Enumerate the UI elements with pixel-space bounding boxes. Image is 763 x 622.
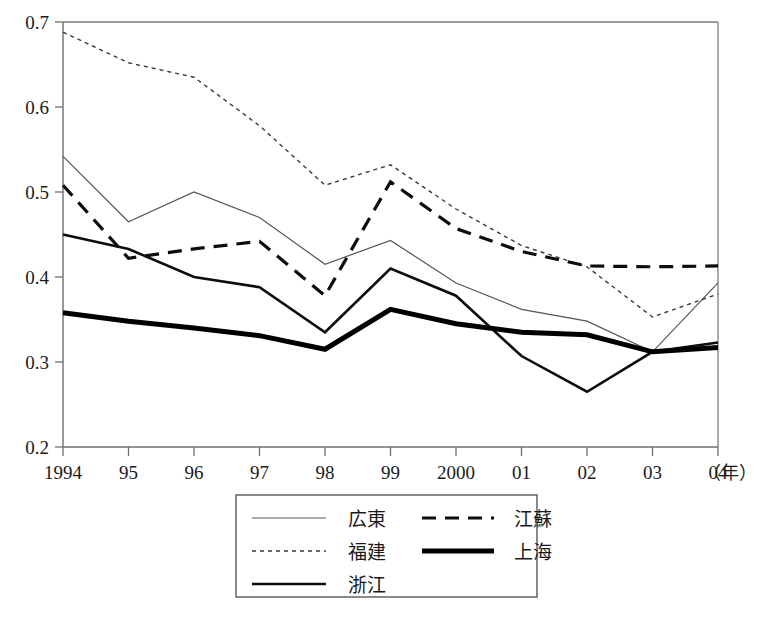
x-tick-label: 97: [250, 462, 269, 483]
x-tick-label: 02: [578, 462, 597, 483]
data-series-group: [63, 32, 718, 392]
line-chart: 0.20.30.40.50.60.7 199495969798992000010…: [0, 0, 763, 622]
x-tick-label: 2000: [437, 462, 475, 483]
legend-label: 上海: [514, 542, 552, 563]
y-tick-label: 0.6: [25, 97, 49, 118]
y-tick-label: 0.7: [25, 12, 49, 33]
chart-legend: 広東江蘇福建上海浙江: [236, 495, 552, 597]
chart-container: 0.20.30.40.50.60.7 199495969798992000010…: [0, 0, 763, 622]
x-axis-unit-label: （年）: [703, 463, 757, 483]
y-tick-label: 0.3: [25, 352, 49, 373]
series-line: [63, 182, 718, 296]
y-tick-label: 0.5: [25, 182, 49, 203]
plot-frame: [63, 22, 718, 447]
x-tick-label: 96: [185, 462, 204, 483]
y-tick-label: 0.2: [25, 437, 49, 458]
x-tick-label: 98: [316, 462, 335, 483]
legend-label: 福建: [348, 542, 386, 563]
x-tick-label: 1994: [44, 462, 83, 483]
x-tick-label: 99: [381, 462, 400, 483]
series-line: [63, 235, 718, 392]
legend-label: 浙江: [348, 575, 386, 596]
y-tick-marks: [55, 22, 63, 447]
legend-box: [236, 495, 537, 597]
x-tick-label: 01: [512, 462, 531, 483]
legend-label: 広東: [348, 509, 386, 530]
series-line: [63, 309, 718, 352]
series-line: [63, 32, 718, 317]
y-tick-label: 0.4: [25, 267, 49, 288]
x-tick-marks: [63, 447, 718, 456]
y-tick-labels: 0.20.30.40.50.60.7: [25, 12, 49, 458]
x-tick-label: 03: [643, 462, 662, 483]
legend-label: 江蘇: [514, 509, 552, 530]
x-tick-labels: 19949596979899200001020304: [44, 462, 728, 483]
x-tick-label: 95: [119, 462, 138, 483]
